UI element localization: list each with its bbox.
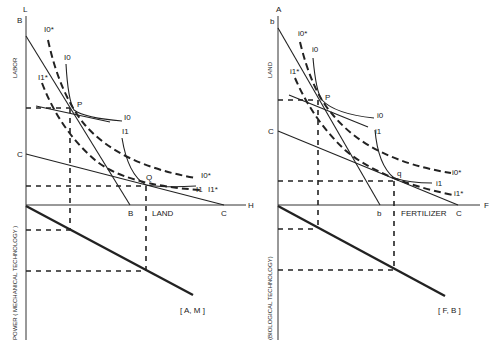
axis-label-a: A (276, 5, 282, 14)
isoquant-i0 (66, 64, 122, 121)
y-label-biological: (BIOLOGICAL TECHNOLOGY) (267, 256, 273, 340)
bracket-label-am: [ A, M ] (180, 306, 205, 315)
curve-label-i1-star: I1* (38, 73, 48, 82)
y-label-labor: LABOR (12, 57, 18, 78)
curve-label-i1-right: i1 (436, 179, 443, 188)
curve-label-i1-right: I1 (196, 185, 203, 194)
technology-line-fb (278, 206, 445, 296)
point-p: P (325, 93, 330, 102)
curve-label-i0-star: I0* (44, 25, 54, 34)
technology-line-am (26, 206, 193, 295)
point-q: q (397, 169, 401, 178)
x-label-land: LAND (152, 209, 174, 218)
curve-label-i0-star-right: i0* (452, 168, 461, 177)
x-intercept-b: B (128, 209, 133, 218)
x-intercept-c: C (456, 209, 462, 218)
axis-label-f: F (484, 201, 489, 210)
curve-label-i0-star-right: I0* (201, 171, 211, 180)
axis-label-l: L (23, 5, 28, 14)
intercept-label-b: b (270, 17, 275, 26)
x-label-fertilizer: FERTILIZER (401, 209, 447, 218)
isocost-line-cc (278, 131, 458, 205)
point-q: Q (146, 173, 152, 182)
intercept-label-c: C (17, 150, 23, 159)
curve-label-i1-star: i1* (290, 67, 299, 76)
point-p: P (77, 100, 82, 109)
axis-label-h: H (248, 201, 254, 210)
curve-label-i1-star-right: i1* (454, 189, 463, 198)
curve-label-i1-star-right: I1* (208, 185, 218, 194)
intercept-label-b: B (17, 16, 22, 25)
y-label-power: POWER ( MECHANICAL TECHNOLOGY ) (12, 226, 18, 340)
curve-label-i0: I0 (64, 53, 71, 62)
isoquant-i1 (375, 130, 432, 183)
curve-label-i0: i0 (312, 45, 319, 54)
x-intercept-c: C (221, 209, 227, 218)
curve-label-i0-right: i0 (377, 111, 384, 120)
curve-label-i0-right: I0 (124, 113, 131, 122)
curve-label-i1: I1 (122, 127, 129, 136)
curve-label-i0-star: i0* (298, 29, 307, 38)
induced-innovation-diagram: L B C H B LAND C P Q I0* I0 I1* I0 I1 I0… (0, 0, 494, 348)
y-label-land: LAND (267, 61, 273, 78)
panel-mechanical-technology: L B C H B LAND C P Q I0* I0 I1* I0 I1 I0… (12, 5, 254, 340)
x-intercept-b: b (377, 209, 382, 218)
curve-label-i1: i1 (375, 127, 382, 136)
isoquant-i0-star (300, 42, 451, 173)
panel-biological-technology: A b C F b FERTILIZER C P q i0* i0 i1* i0… (267, 5, 489, 340)
bracket-label-fb: [ F, B ] (438, 306, 461, 315)
intercept-label-c: C (268, 127, 274, 136)
